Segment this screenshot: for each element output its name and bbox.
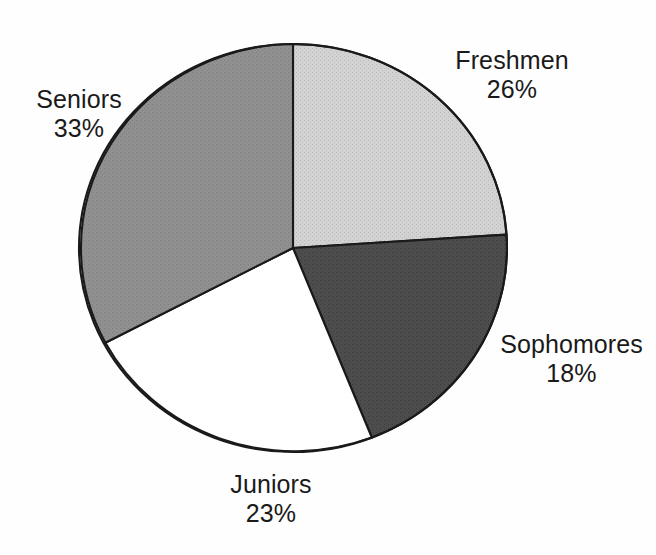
pie-label-juniors-name: Juniors (186, 470, 356, 499)
pie-label-freshmen: Freshmen 26% (423, 46, 601, 104)
pie-label-freshmen-value: 26% (423, 75, 601, 104)
pie-label-sophomores-name: Sophomores (487, 330, 656, 359)
pie-label-seniors-value: 33% (8, 114, 150, 143)
pie-label-sophomores-value: 18% (487, 359, 656, 388)
pie-chart-figure: Freshmen 26% Sophomores 18% Seniors 33% … (0, 0, 656, 555)
pie-label-sophomores: Sophomores 18% (487, 330, 656, 388)
pie-label-freshmen-name: Freshmen (423, 46, 601, 75)
pie-label-seniors-name: Seniors (8, 85, 150, 114)
pie-label-juniors-value: 23% (186, 499, 356, 528)
pie-label-juniors: Juniors 23% (186, 470, 356, 528)
pie-label-seniors: Seniors 33% (8, 85, 150, 143)
